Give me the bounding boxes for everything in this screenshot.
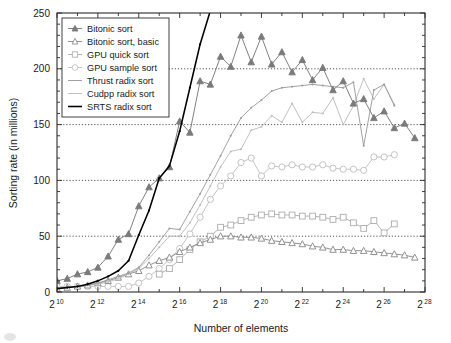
x-tick-exponent: 22	[302, 298, 310, 305]
legend-item-label: Bitonic sort, basic	[87, 37, 159, 47]
data-point-marker	[168, 235, 170, 237]
data-point-marker	[138, 234, 140, 236]
y-tick-label-150: 150	[33, 119, 50, 130]
data-point-marker	[322, 112, 324, 114]
y-tick-label-100: 100	[33, 175, 50, 186]
data-point-marker	[209, 174, 211, 176]
data-point-marker	[342, 124, 344, 126]
x-tick-exponent: 16	[179, 298, 187, 305]
legend-item-label: Bitonic sort	[87, 24, 133, 34]
data-point-marker	[260, 99, 262, 101]
chart-legend[interactable]: Bitonic sortBitonic sort, basicGPU quick…	[62, 18, 169, 117]
data-point-marker	[279, 164, 285, 170]
x-tick-exponent: 10	[56, 298, 64, 305]
data-point-marker	[107, 281, 109, 283]
data-point-marker	[340, 166, 346, 172]
data-point-marker	[309, 164, 315, 170]
x-tick-base: 2	[254, 299, 260, 310]
data-point-marker	[177, 257, 183, 263]
legend-item-gpu-sample-sort[interactable]: GPU sample sort	[62, 61, 169, 74]
data-point-marker	[332, 97, 334, 99]
data-point-marker	[127, 260, 129, 262]
data-point-marker	[72, 52, 77, 57]
x-tick-base: 2	[417, 299, 423, 310]
data-point-marker	[179, 229, 181, 231]
chart-figure: 050100150200250 210212214216218220222224…	[0, 0, 451, 343]
data-point-marker	[320, 214, 326, 220]
data-point-marker	[66, 286, 68, 288]
data-point-marker	[271, 90, 273, 92]
data-point-marker	[228, 173, 234, 179]
data-point-marker	[199, 204, 201, 206]
data-point-marker	[209, 185, 211, 187]
data-point-marker	[148, 258, 150, 260]
data-point-marker	[371, 218, 377, 224]
legend-item-gpu-quick-sort[interactable]: GPU quick sort	[62, 48, 169, 61]
data-point-marker	[107, 275, 109, 277]
x-tick-exponent: 24	[343, 298, 351, 305]
data-point-marker	[269, 211, 275, 217]
data-point-marker	[115, 283, 121, 289]
x-tick-base: 2	[131, 299, 137, 310]
legend-item-cudpp-radix-sort[interactable]: Cudpp radix sort	[62, 87, 169, 100]
data-point-marker	[158, 241, 160, 243]
data-point-marker	[260, 126, 262, 128]
legend-item-bitonic-sort[interactable]: Bitonic sort	[62, 22, 169, 35]
sorting-rate-line-chart: 050100150200250 210212214216218220222224…	[0, 0, 451, 343]
data-point-marker	[373, 98, 375, 100]
data-point-marker	[156, 271, 162, 277]
data-point-marker	[197, 214, 203, 220]
data-point-marker	[199, 193, 201, 195]
data-point-marker	[248, 214, 254, 220]
y-tick-label-50: 50	[39, 231, 51, 242]
data-point-marker	[301, 121, 303, 123]
x-tick-base: 2	[90, 299, 96, 310]
data-point-marker	[125, 283, 131, 289]
data-point-marker	[393, 105, 395, 107]
data-point-marker	[279, 212, 285, 218]
data-point-marker	[156, 265, 162, 271]
data-point-marker	[361, 225, 367, 231]
x-tick-exponent: 14	[138, 298, 146, 305]
data-point-marker	[168, 165, 170, 167]
data-point-marker	[250, 129, 252, 131]
legend-item-label: Thrust radix sort	[87, 76, 154, 86]
data-point-marker	[289, 212, 295, 218]
data-point-marker	[220, 155, 222, 157]
legend-item-label: SRTS radix sort	[87, 102, 152, 112]
data-point-marker	[158, 177, 160, 179]
data-point-marker	[351, 220, 357, 226]
y-tick-label-250: 250	[33, 8, 50, 19]
data-point-marker	[238, 218, 244, 224]
data-point-marker	[259, 212, 265, 218]
data-point-marker	[299, 164, 305, 170]
data-point-marker	[148, 209, 150, 211]
data-point-marker	[363, 145, 365, 147]
data-point-marker	[258, 173, 264, 179]
data-point-marker	[189, 87, 191, 89]
data-point-marker	[179, 235, 181, 237]
data-point-marker	[271, 115, 273, 117]
legend-item-srts-radix-sort[interactable]: SRTS radix sort	[62, 100, 169, 113]
data-point-marker	[199, 43, 201, 45]
x-tick-exponent: 18	[220, 298, 228, 305]
data-point-marker	[136, 280, 142, 286]
legend-item-thrust-radix-sort[interactable]: Thrust radix sort	[62, 74, 169, 87]
x-tick-exponent: 28	[424, 298, 432, 305]
y-tick-label-200: 200	[33, 63, 50, 74]
data-point-marker	[281, 121, 283, 123]
data-point-marker	[381, 230, 387, 236]
legend-item-bitonic-sort-basic[interactable]: Bitonic sort, basic	[62, 35, 169, 48]
data-point-marker	[230, 150, 232, 152]
data-point-marker	[320, 162, 326, 168]
data-point-marker	[248, 155, 254, 161]
data-point-marker	[383, 83, 385, 85]
legend-item-label: GPU quick sort	[87, 50, 149, 60]
data-point-marker	[168, 227, 170, 229]
data-point-marker	[312, 83, 314, 85]
data-point-marker	[148, 254, 150, 256]
data-point-marker	[146, 273, 152, 279]
data-point-marker	[97, 282, 99, 284]
x-tick-base: 2	[335, 299, 341, 310]
data-point-marker	[322, 85, 324, 87]
